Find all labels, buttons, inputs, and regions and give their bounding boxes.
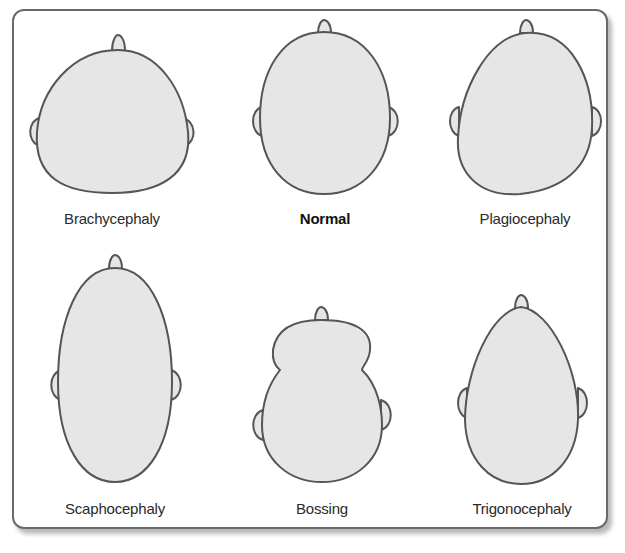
label-scaphocephaly: Scaphocephaly <box>15 500 215 517</box>
brachycephaly-head <box>30 35 193 193</box>
nose-icon <box>109 255 122 269</box>
label-brachycephaly: Brachycephaly <box>12 210 212 227</box>
bossing-head <box>253 307 391 482</box>
head-outline <box>58 268 172 482</box>
scaphocephaly-head <box>51 255 181 482</box>
head-outline <box>262 320 382 482</box>
nose-icon <box>520 20 533 33</box>
nose-icon <box>112 35 125 51</box>
label-bossing: Bossing <box>222 500 422 517</box>
trigonocephaly-head <box>458 295 587 484</box>
head-outline <box>260 32 390 194</box>
head-outline <box>458 33 592 194</box>
plagiocephaly-head <box>450 20 601 194</box>
label-normal: Normal <box>225 210 425 227</box>
label-trigonocephaly: Trigonocephaly <box>422 500 622 517</box>
label-plagiocephaly: Plagiocephaly <box>425 210 625 227</box>
normal-head <box>253 20 398 194</box>
head-outline <box>37 50 189 193</box>
right-ear-icon <box>592 107 601 136</box>
head-outline <box>465 307 578 484</box>
head-shapes-diagram <box>0 0 625 553</box>
right-ear-icon <box>578 388 587 418</box>
nose-icon <box>315 307 328 320</box>
